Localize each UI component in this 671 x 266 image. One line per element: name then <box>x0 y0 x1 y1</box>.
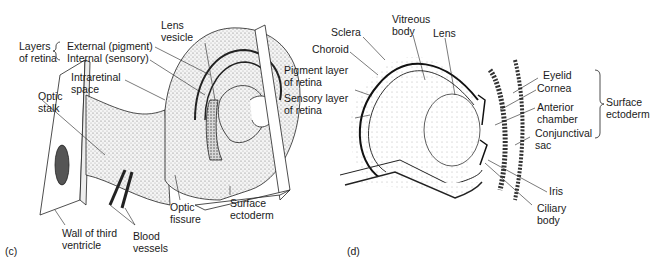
label-surface-ectoderm-c: Surface ectoderm <box>230 198 274 221</box>
panel-letter-d: (d) <box>347 245 360 257</box>
label-lens-vesicle: Lens vesicle <box>161 20 193 43</box>
label-vitreous-body: Vitreous body <box>392 14 430 37</box>
label-external-pigment: External (pigment) <box>67 41 153 53</box>
label-sclera: Sclera <box>331 27 361 39</box>
label-choroid: Choroid <box>312 44 349 56</box>
label-pigment-layer: Pigment layer of retina <box>284 65 348 88</box>
label-surface-ectoderm-d: Surface ectoderm <box>606 97 650 120</box>
label-anterior-chamber: Anterior chamber <box>537 102 578 125</box>
label-optic-fissure: Optic fissure <box>170 202 201 225</box>
label-lens: Lens <box>433 28 456 40</box>
label-iris: Iris <box>549 186 563 198</box>
label-layers-of-retina: Layers of retina <box>19 41 57 64</box>
eye-drawing <box>340 57 523 200</box>
label-intraretinal-space: Intraretinal space <box>71 72 121 95</box>
label-eyelid: Eyelid <box>543 70 572 82</box>
label-conjunctival-sac: Conjunctival sac <box>535 128 592 151</box>
label-optic-stalk: Optic stalk <box>38 91 63 114</box>
label-ciliary-body: Ciliary body <box>537 203 566 226</box>
surface-ectoderm-bracket <box>595 70 604 138</box>
label-sensory-layer: Sensory layer of retina <box>284 93 348 116</box>
panel-letter-c: (c) <box>5 245 17 257</box>
label-internal-sensory: Internal (sensory) <box>67 53 149 65</box>
label-wall-of-third-ventricle: Wall of third ventricle <box>62 228 117 251</box>
label-blood-vessels: Blood vessels <box>133 231 168 254</box>
label-cornea: Cornea <box>537 83 571 95</box>
